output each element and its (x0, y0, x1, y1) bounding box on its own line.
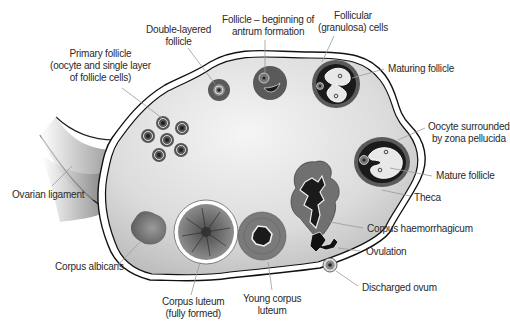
label-luteum-full: Corpus luteum (fully formed) (162, 296, 224, 320)
label-haemorrhagicum: Corpus haemorrhagicum (367, 223, 473, 235)
label-primary-follicle: Primary follicle (oocyte and single laye… (50, 48, 151, 84)
label-maturing: Maturing follicle (388, 63, 454, 75)
double-layered-follicle (208, 79, 230, 101)
label-granulosa: Follicular (granulosa) cells (318, 10, 388, 34)
label-theca: Theca (414, 192, 441, 204)
discharged-ovum (323, 258, 337, 272)
label-mature: Mature follicle (436, 170, 495, 182)
label-double-layered: Double-layered follicle (146, 24, 211, 48)
label-albicans: Corpus albicans (55, 261, 124, 273)
label-antrum: Follicle – beginning of antrum formation (222, 14, 314, 38)
label-ovulation: Ovulation (366, 246, 406, 258)
label-ligament: Ovarian ligament (12, 189, 84, 201)
label-zona: Oocyte surrounded by zona pellucida (428, 121, 510, 145)
label-luteum-young: Young corpus luteum (243, 293, 301, 317)
label-discharged: Discharged ovum (362, 282, 437, 294)
mature-follicle (354, 137, 410, 187)
maturing-follicle (312, 60, 360, 108)
corpus-luteum-full (174, 200, 238, 264)
antrum-follicle (253, 66, 287, 100)
young-corpus-luteum (238, 212, 286, 260)
